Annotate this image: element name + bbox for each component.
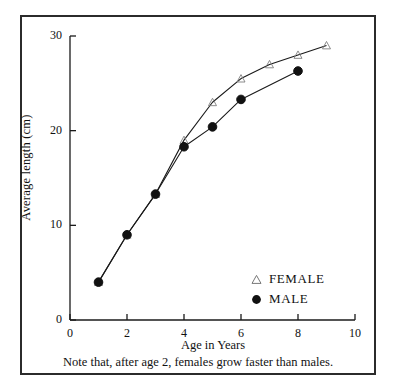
y-tick-label: 30 (24, 28, 62, 43)
x-axis-title: Age in Years (70, 338, 356, 353)
legend-label-male: MALE (269, 291, 308, 307)
y-axis-title: Average length (cm) (19, 98, 34, 238)
y-tick-label: 0 (24, 312, 62, 327)
legend-label-female: FEMALE (269, 271, 325, 287)
open-triangle-marker (248, 274, 264, 285)
data-series (94, 41, 330, 286)
figure-caption: Note that, after age 2, females grow fas… (22, 355, 374, 370)
chart-figure: 0102030 0246810 Average length (cm) Age … (0, 0, 394, 392)
legend-item-female: FEMALE (248, 270, 368, 288)
legend-item-male: MALE (248, 290, 368, 308)
filled-circle-marker (248, 294, 264, 305)
chart-legend: FEMALE MALE (248, 270, 368, 310)
